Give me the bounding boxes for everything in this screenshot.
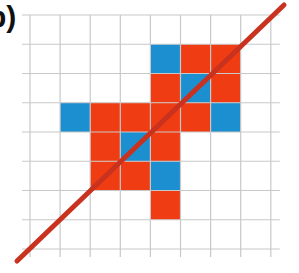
red-cell (181, 103, 211, 132)
red-cell (211, 74, 241, 103)
blue-cell (211, 103, 241, 132)
red-cell (150, 132, 180, 161)
red-cell (90, 103, 120, 132)
blue-cell (150, 44, 180, 73)
red-cell (181, 44, 211, 73)
red-cell (90, 132, 120, 161)
blue-cell (60, 103, 90, 132)
blue-cell (150, 161, 180, 190)
symmetry-grid-figure: b) (0, 0, 299, 273)
red-cell (150, 74, 180, 103)
red-cell (120, 103, 150, 132)
grid-diagram (0, 0, 299, 273)
red-cell (120, 161, 150, 190)
red-cell (150, 191, 180, 220)
